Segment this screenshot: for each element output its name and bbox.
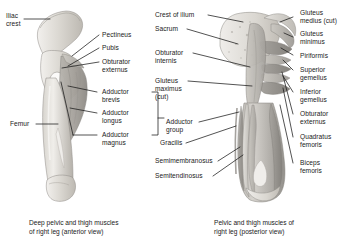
caption-anterior-line2: of right leg (anterior view) xyxy=(29,228,103,237)
label-obturator-internus-line2: internis xyxy=(155,57,177,65)
label-pubis: Pubis xyxy=(102,44,119,52)
caption-posterior-line1: Pelvic and thigh muscles of xyxy=(214,219,294,228)
label-obturator-externus-post-line2: externus xyxy=(300,118,326,126)
label-adductor-group-line2: group xyxy=(166,126,183,134)
label-biceps-femoris-line2: femoris xyxy=(300,167,322,175)
label-gracilis: Gracilis xyxy=(160,139,182,147)
label-semimembranosus: Semimembranosus xyxy=(155,157,213,165)
label-obturator-externus: Obturator xyxy=(102,58,130,66)
label-gluteus-medius: Gluteus xyxy=(300,9,323,17)
label-obturator-externus-post: Obturator xyxy=(300,110,328,118)
label-inferior-gemellus-line2: gemellus xyxy=(300,96,327,104)
caption-posterior-line2: right leg (posterior view) xyxy=(214,228,284,237)
label-gluteus-minimus-line2: minimus xyxy=(300,38,325,46)
label-obturator-externus-line2: externus xyxy=(102,66,128,74)
label-gluteus-maximus-line2: maximus xyxy=(155,85,182,93)
label-femur: Femur xyxy=(10,120,29,128)
label-biceps-femoris: Biceps xyxy=(300,159,320,167)
label-adductor-longus-line2: longus xyxy=(102,117,122,125)
label-adductor-brevis-line2: brevis xyxy=(102,96,120,104)
label-adductor-brevis: Adductor xyxy=(102,88,129,96)
label-adductor-group: Adductor xyxy=(166,118,193,126)
label-semitendinosus: Semitendinosus xyxy=(155,172,203,180)
label-superior-gemellus-line2: gemellus xyxy=(300,74,327,82)
posterior-view-illustration xyxy=(216,8,308,206)
label-superior-gemellus: Superior xyxy=(300,66,325,74)
label-crest-of-ilium: Crest of ilium xyxy=(155,11,194,19)
label-gluteus-maximus-line3: (cut) xyxy=(155,93,168,101)
label-gluteus-maximus: Gluteus xyxy=(155,77,178,85)
label-piriformis: Piriformis xyxy=(300,52,328,60)
label-sacrum: Sacrum xyxy=(155,25,178,33)
label-adductor-magnus-line2: magnus xyxy=(102,139,126,147)
label-iliac-crest-line2: crest xyxy=(6,20,21,28)
label-iliac-crest: Iliac xyxy=(6,12,18,20)
label-quadratus-femoris: Quadratus xyxy=(300,133,331,141)
label-adductor-longus: Adductor xyxy=(102,109,129,117)
label-gluteus-medius-line2: medius (cut) xyxy=(300,17,337,25)
label-adductor-magnus: Adductor xyxy=(102,131,129,139)
label-inferior-gemellus: Inferior xyxy=(300,88,321,96)
label-obturator-internus: Obturator xyxy=(155,49,183,57)
anatomy-figure-root: Iliac crest Pectineus Pubis Obturator ex… xyxy=(0,0,360,247)
caption-anterior-line1: Deep pelvic and thigh muscles xyxy=(29,219,118,228)
label-pectineus: Pectineus xyxy=(102,31,131,39)
label-quadratus-femoris-line2: femoris xyxy=(300,141,322,149)
label-gluteus-minimus: Gluteus xyxy=(300,30,323,38)
anterior-view-illustration xyxy=(28,8,106,206)
